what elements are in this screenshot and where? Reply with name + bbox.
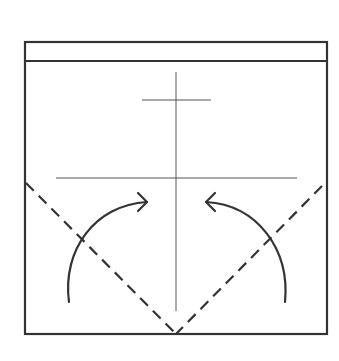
origami-fold-diagram: [0, 0, 339, 361]
left-valley-fold-line: [26, 183, 176, 334]
valley-fold-lines: [26, 183, 322, 334]
right-curved-arrow-icon: [206, 202, 286, 302]
left-curved-arrow-icon: [68, 202, 147, 302]
fold-arrows: [68, 193, 285, 302]
crease-lines: [56, 72, 297, 311]
right-valley-fold-line: [176, 186, 322, 334]
